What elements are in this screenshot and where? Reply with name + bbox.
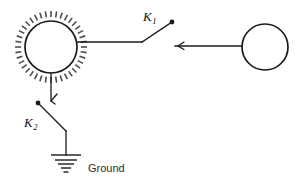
switch-k1-label-subscript: 1 xyxy=(152,16,156,26)
charge-dash xyxy=(30,71,34,76)
charge-dash xyxy=(65,15,68,20)
charge-dash xyxy=(81,52,87,53)
switch-k1-label: K1 xyxy=(142,9,156,26)
charge-dash xyxy=(26,68,30,72)
charge-dash xyxy=(15,41,21,42)
charge-dash xyxy=(17,36,23,38)
switch-k2-label-subscript: 2 xyxy=(33,122,38,132)
charge-dash xyxy=(75,65,80,69)
charge-dash xyxy=(78,31,83,34)
charge-dash xyxy=(78,61,83,64)
charge-dash xyxy=(69,71,73,76)
charge-dash xyxy=(56,77,57,83)
charge-dash xyxy=(65,74,68,79)
uncharged-sphere xyxy=(242,24,288,70)
charge-dash xyxy=(60,13,62,19)
switch-k2-label: K2 xyxy=(23,115,38,132)
ground-symbol xyxy=(51,155,81,172)
arrow-head-near-charged-sphere xyxy=(51,94,57,104)
charge-dash xyxy=(80,36,86,38)
charge-dash xyxy=(56,11,57,17)
electrostatics-circuit-diagram: Charged sphere connected through switche… xyxy=(0,0,302,191)
charge-dash xyxy=(72,22,76,26)
charge-dash xyxy=(35,15,38,20)
ground-label: Ground xyxy=(88,162,125,174)
charge-dash xyxy=(19,61,24,64)
charge-dash xyxy=(72,68,76,72)
charge-dash xyxy=(69,18,73,23)
charge-dash xyxy=(40,76,42,82)
charge-dash xyxy=(30,18,34,23)
charge-dash xyxy=(45,11,46,17)
charge-dash xyxy=(40,13,42,19)
switch-k2-blade[interactable] xyxy=(38,103,66,131)
charge-dash xyxy=(15,52,21,53)
charge-dash xyxy=(22,26,27,30)
charge-dash xyxy=(75,26,80,30)
switch-k1-terminal-dot[interactable] xyxy=(170,20,175,25)
switch-k2-terminal-dot[interactable] xyxy=(36,101,41,106)
charge-dash xyxy=(26,22,30,26)
charge-dash xyxy=(45,77,46,83)
charge-dash xyxy=(35,74,38,79)
charged-sphere xyxy=(25,21,77,73)
charge-dash xyxy=(60,76,62,82)
charge-dash xyxy=(22,65,27,69)
charge-dash xyxy=(19,31,24,34)
charge-dash xyxy=(17,56,23,58)
switch-k1-blade[interactable] xyxy=(142,22,172,42)
charge-dash xyxy=(80,56,86,58)
